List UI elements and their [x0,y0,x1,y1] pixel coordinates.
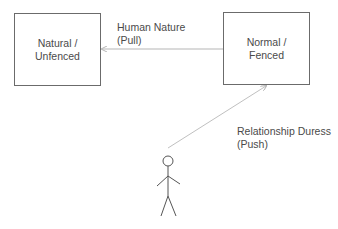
diagram-canvas: Natural / Unfenced Normal / Fenced Human… [0,0,338,229]
pull-arrow-label: Human Nature (Pull) [117,21,185,47]
node-label: Normal / Fenced [247,36,287,62]
push-arrow-label: Relationship Duress (Push) [237,125,331,151]
stick-figure-icon [157,156,180,216]
node-label: Natural / Unfenced [35,37,80,63]
node-normal-fenced: Normal / Fenced [223,12,310,85]
node-natural-unfenced: Natural / Unfenced [14,13,101,86]
